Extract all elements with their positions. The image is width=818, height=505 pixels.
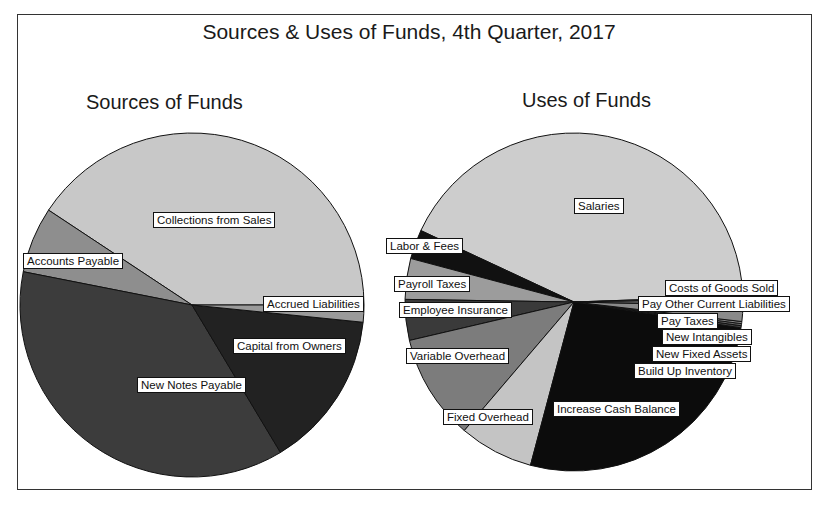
- label-employee-insurance: Employee Insurance: [399, 302, 512, 318]
- label-costs-of-goods-sold: Costs of Goods Sold: [665, 280, 778, 296]
- label-fixed-overhead: Fixed Overhead: [443, 409, 533, 425]
- label-capital-from-owners: Capital from Owners: [233, 338, 346, 354]
- label-build-up-inventory: Build Up Inventory: [634, 363, 736, 379]
- label-pay-other-current-liabilities: Pay Other Current Liabilities: [638, 296, 790, 312]
- label-payroll-taxes: Payroll Taxes: [394, 276, 470, 292]
- label-new-notes-payable: New Notes Payable: [137, 377, 246, 393]
- label-new-intangibles: New Intangibles: [662, 329, 752, 345]
- label-accounts-payable: Accounts Payable: [23, 253, 123, 269]
- label-labor-fees: Labor & Fees: [386, 238, 463, 254]
- label-salaries: Salaries: [574, 198, 624, 214]
- label-variable-overhead: Variable Overhead: [406, 348, 509, 364]
- label-pay-taxes: Pay Taxes: [657, 313, 718, 329]
- label-increase-cash-balance: Increase Cash Balance: [553, 401, 680, 417]
- label-collections-from-sales: Collections from Sales: [153, 212, 275, 228]
- label-new-fixed-assets: New Fixed Assets: [652, 346, 751, 362]
- label-accrued-liabilities: Accrued Liabilities: [263, 296, 364, 312]
